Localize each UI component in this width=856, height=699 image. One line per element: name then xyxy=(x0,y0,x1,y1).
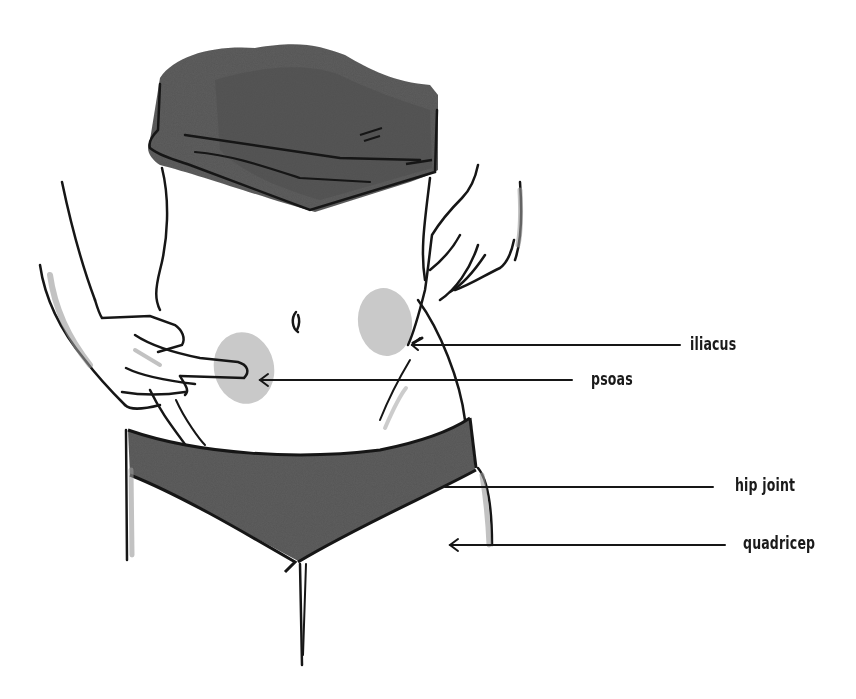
muscle-spots xyxy=(207,285,416,410)
label-hip-joint: hip joint xyxy=(735,475,795,495)
psoas-spot xyxy=(207,327,281,410)
briefs xyxy=(128,418,476,572)
crop-top xyxy=(148,44,438,212)
label-psoas: psoas xyxy=(591,369,633,389)
label-quadricep: quadricep xyxy=(743,533,815,553)
iliacus-spot xyxy=(354,285,417,360)
label-iliacus: iliacus xyxy=(690,334,736,354)
right-hand xyxy=(408,165,521,345)
